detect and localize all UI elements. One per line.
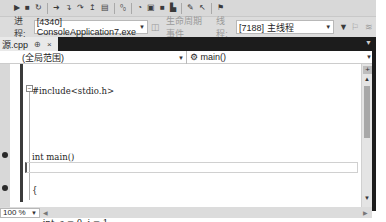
flag-icon[interactable]: ⚑ — [217, 4, 224, 12]
outline-guide — [29, 90, 30, 200]
hex-icon[interactable]: ▤ — [101, 4, 109, 12]
scroll-left-icon[interactable]: ◀ — [43, 209, 48, 216]
bookmark-icon[interactable]: ◔ — [137, 4, 142, 12]
show-next-statement-icon[interactable]: ➜ — [53, 4, 60, 12]
chevron-down-icon: ▼ — [325, 24, 331, 30]
breakpoint-icon[interactable] — [2, 185, 8, 191]
continue-icon[interactable]: ▶ — [14, 4, 20, 12]
window-edge — [372, 37, 376, 211]
toolbar-separator — [47, 3, 48, 14]
step-into-icon[interactable]: ↴ — [65, 4, 72, 12]
restart-icon[interactable]: ↻ — [35, 4, 42, 12]
chevron-down-icon: ▼ — [139, 24, 145, 30]
scroll-right-icon[interactable]: ▶ — [363, 209, 368, 216]
chevron-down-icon: ▼ — [178, 55, 184, 61]
debug-location-toolbar: 进程: [4340] ConsoleApplication7.exe ▼ ◫ 生… — [0, 17, 376, 37]
scope-dropdown[interactable]: (全局范围) ▼ — [0, 51, 187, 64]
member-value: main() — [201, 52, 227, 62]
code-text[interactable]: #include<stdio.h> int main() { int s = 0… — [32, 64, 116, 222]
code-line: #include<stdio.h> — [32, 86, 116, 97]
scroll-down-icon[interactable]: ▼ — [364, 195, 370, 201]
editor-bottom-bar: 100 % ▼ ◀ ▶ — [0, 207, 372, 218]
flag-threads-icon[interactable]: ⚐ — [351, 22, 359, 32]
tab-label: 源.cpp — [2, 38, 28, 51]
close-icon[interactable]: × — [47, 40, 52, 49]
thread-value: [7188] 主线程 — [239, 21, 294, 34]
vertical-scrollbar[interactable]: + ▲ ▼ — [361, 64, 372, 207]
function-icon: ⚙ — [190, 52, 198, 62]
process-value: [4340] ConsoleApplication7.exe — [37, 17, 136, 37]
stop-icon[interactable]: ■ — [25, 4, 30, 12]
scroll-up-icon[interactable]: ▲ — [364, 76, 370, 82]
code-line: { — [32, 185, 116, 196]
code-line: int main() — [32, 152, 116, 163]
code-line: int s = 0, i = 1; — [32, 218, 116, 222]
step-out-icon[interactable]: ↥ — [89, 4, 96, 12]
pen-icon[interactable]: ✎ — [187, 4, 194, 12]
code-line — [32, 119, 116, 130]
step-over-icon[interactable]: ↷ — [77, 4, 84, 12]
scrollbar-thumb[interactable] — [364, 86, 370, 138]
breakpoint-margin[interactable] — [0, 64, 10, 207]
scope-value: (全局范围) — [22, 51, 64, 64]
process-dropdown[interactable]: [4340] ConsoleApplication7.exe ▼ — [34, 20, 148, 34]
comment-icon[interactable]: ▣ — [147, 4, 155, 12]
filter-icon[interactable]: ▼ — [339, 23, 348, 32]
zoom-dropdown[interactable]: 100 % ▼ — [0, 208, 40, 218]
zoom-value: 100 % — [3, 208, 26, 217]
toolbar-separator — [131, 3, 132, 14]
change-tracking-bar — [20, 64, 23, 202]
toolbar-separator — [211, 3, 212, 14]
uncomment-icon[interactable]: ■ — [160, 4, 165, 12]
format-icon[interactable]: ▙ — [170, 4, 176, 12]
toolbar-separator — [181, 3, 182, 14]
split-icon[interactable]: + — [363, 66, 372, 74]
arrow-icon[interactable]: ↖ — [199, 4, 206, 12]
tab-overflow-chevron-icon[interactable]: ▼ — [365, 39, 372, 46]
breakpoint-icon[interactable] — [2, 152, 8, 158]
navigation-bar: (全局范围) ▼ ⚙ main() ▼ — [0, 51, 376, 64]
lifecycle-events-icon[interactable]: ◫ — [151, 22, 160, 32]
toolbar-separator — [114, 3, 115, 14]
chevron-down-icon: ▼ — [31, 210, 37, 216]
stack-frame-icon[interactable]: ≋ — [365, 22, 373, 32]
tab-source-cpp[interactable]: 源.cpp ⊕ × — [0, 37, 58, 51]
pin-icon[interactable]: ⊕ — [34, 40, 41, 49]
document-tab-bar: 源.cpp ⊕ × ▼ — [0, 37, 376, 51]
member-dropdown[interactable]: ⚙ main() ▼ — [187, 51, 376, 63]
threads-icon[interactable]: ⁰₀ — [120, 4, 126, 12]
thread-dropdown[interactable]: [7188] 主线程 ▼ — [236, 20, 334, 34]
code-editor[interactable]: − #include<stdio.h> int main() { int s =… — [0, 64, 376, 207]
